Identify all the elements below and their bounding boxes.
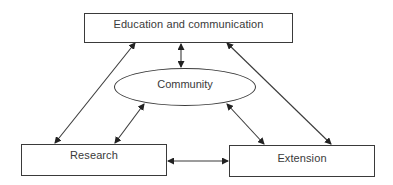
arrow-community-research: [115, 104, 144, 143]
node-label: Community: [157, 78, 213, 90]
node-label: Extension: [277, 152, 326, 176]
node-label: Research: [70, 149, 118, 175]
node-community: Community: [114, 68, 256, 106]
node-education-communication: Education and communication: [84, 13, 293, 43]
node-label: Education and communication: [113, 18, 263, 42]
diagram-canvas: Education and communication Community Re…: [0, 0, 393, 185]
node-research: Research: [21, 144, 167, 176]
arrow-community-extension: [227, 104, 264, 144]
node-extension: Extension: [229, 145, 375, 177]
